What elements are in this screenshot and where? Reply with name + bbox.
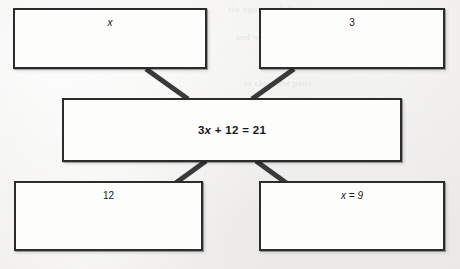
node-box-bottom-left[interactable]: 12: [14, 181, 203, 251]
diagram-page: the equation below and write each term i…: [0, 0, 460, 269]
node-label-center-equation: 3x + 12 = 21: [64, 124, 400, 136]
node-label-bottom-left: 12: [16, 190, 201, 202]
node-box-bottom-right[interactable]: x = 9: [259, 181, 445, 251]
node-box-center-equation[interactable]: 3x + 12 = 21: [62, 98, 402, 162]
node-label-top-right: 3: [261, 17, 443, 29]
node-label-top-left: x: [15, 17, 205, 29]
connector-top-right-to-center: [252, 69, 294, 99]
equation-text: 3x + 12 = 21: [198, 124, 266, 136]
connector-top-left-to-center: [146, 69, 188, 99]
node-box-top-right[interactable]: 3: [259, 8, 445, 69]
node-label-bottom-right: x = 9: [261, 190, 443, 202]
node-box-top-left[interactable]: x: [13, 8, 207, 69]
